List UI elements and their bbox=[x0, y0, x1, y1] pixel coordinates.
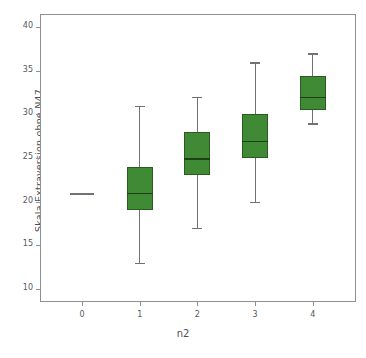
y-tick-25: 25 bbox=[0, 158, 40, 159]
y-tick-20: 20 bbox=[0, 202, 40, 203]
whisker-cap-upper bbox=[135, 106, 145, 108]
whisker-cap-upper bbox=[192, 97, 202, 99]
whisker-cap-upper bbox=[250, 62, 260, 64]
box-rect bbox=[127, 167, 153, 211]
plot-area bbox=[40, 14, 356, 302]
whisker-lower bbox=[139, 210, 140, 262]
box-rect bbox=[242, 114, 268, 158]
y-tick-label: 20 bbox=[23, 196, 33, 205]
y-tick-30: 30 bbox=[0, 114, 40, 115]
x-tick-mark bbox=[140, 302, 141, 306]
whisker-cap-lower bbox=[192, 228, 202, 230]
whisker-lower bbox=[312, 110, 313, 123]
x-tick-label: 4 bbox=[303, 310, 323, 319]
median-line bbox=[184, 158, 210, 160]
y-tick-10: 10 bbox=[0, 289, 40, 290]
whisker-upper bbox=[312, 53, 313, 76]
whisker-cap-upper bbox=[308, 53, 318, 55]
whisker-lower bbox=[197, 175, 198, 227]
median-line bbox=[70, 193, 94, 195]
x-tick-label: 3 bbox=[245, 310, 265, 319]
whisker-upper bbox=[197, 97, 198, 132]
whisker-upper bbox=[255, 62, 256, 114]
y-tick-label: 25 bbox=[23, 152, 33, 161]
y-tick-label: 15 bbox=[23, 239, 33, 248]
y-tick-15: 15 bbox=[0, 245, 40, 246]
x-tick-label: 1 bbox=[130, 310, 150, 319]
median-line bbox=[300, 97, 326, 99]
whisker-cap-lower bbox=[135, 263, 145, 265]
whisker-upper bbox=[139, 106, 140, 167]
x-tick-mark bbox=[313, 302, 314, 306]
y-tick-label: 10 bbox=[23, 283, 33, 292]
whisker-lower bbox=[255, 158, 256, 202]
y-tick-40: 40 bbox=[0, 27, 40, 28]
y-tick-label: 35 bbox=[23, 65, 33, 74]
x-tick-mark bbox=[197, 302, 198, 306]
median-line bbox=[242, 141, 268, 143]
y-tick-label: 30 bbox=[23, 108, 33, 117]
x-tick-mark bbox=[255, 302, 256, 306]
y-tick-label: 40 bbox=[23, 21, 33, 30]
x-axis-title: n2 bbox=[0, 328, 366, 339]
y-tick-35: 35 bbox=[0, 71, 40, 72]
whisker-cap-lower bbox=[250, 202, 260, 204]
x-tick-label: 0 bbox=[72, 310, 92, 319]
x-tick-label: 2 bbox=[187, 310, 207, 319]
box-rect bbox=[300, 76, 326, 110]
median-line bbox=[127, 193, 153, 195]
box-rect bbox=[184, 132, 210, 176]
whisker-cap-lower bbox=[308, 123, 318, 125]
boxplot-chart: Skala Extraversion ohne N47 101520253035… bbox=[0, 0, 366, 358]
x-tick-mark bbox=[82, 302, 83, 306]
